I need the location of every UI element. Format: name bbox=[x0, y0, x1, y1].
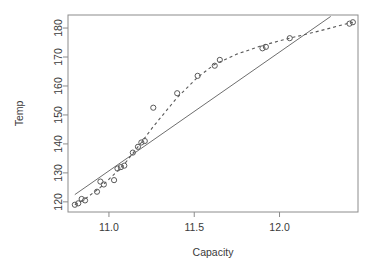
data-point bbox=[175, 91, 180, 96]
x-axis-title: Capacity bbox=[193, 246, 235, 258]
plot-box bbox=[68, 15, 358, 212]
y-tick-label: 130 bbox=[52, 164, 64, 182]
x-tick-label: 11.0 bbox=[99, 221, 119, 233]
y-tick-label: 140 bbox=[52, 135, 64, 153]
y-axis-title: Temp bbox=[13, 101, 25, 127]
data-points bbox=[72, 20, 355, 208]
axis-labels: 12013014015016017018011.011.512.0Capacit… bbox=[13, 19, 290, 258]
y-tick-label: 120 bbox=[52, 193, 64, 211]
data-point bbox=[111, 178, 116, 183]
data-point bbox=[98, 179, 103, 184]
y-tick-label: 170 bbox=[52, 48, 64, 66]
axes bbox=[63, 15, 358, 217]
y-tick-label: 150 bbox=[52, 106, 64, 124]
data-point bbox=[101, 182, 106, 187]
scatter-plot: 12013014015016017018011.011.512.0Capacit… bbox=[0, 0, 379, 266]
fitted-lines bbox=[75, 16, 353, 204]
x-tick-label: 12.0 bbox=[269, 221, 290, 233]
x-tick-label: 11.5 bbox=[184, 221, 204, 233]
y-tick-label: 160 bbox=[52, 77, 64, 95]
data-point bbox=[151, 105, 156, 110]
series-linear-fit bbox=[75, 16, 331, 194]
series-smooth-fit bbox=[75, 22, 353, 205]
chart-container: 12013014015016017018011.011.512.0Capacit… bbox=[0, 0, 379, 266]
y-tick-label: 180 bbox=[52, 19, 64, 37]
